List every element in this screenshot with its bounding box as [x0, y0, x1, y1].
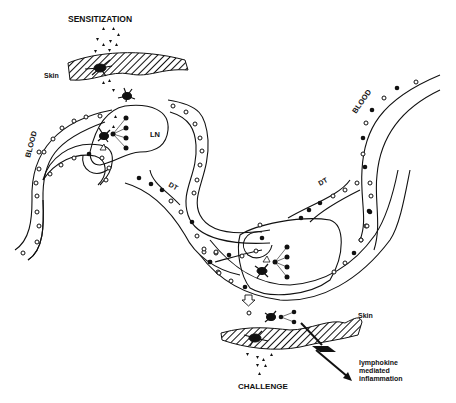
dt-right-label: DT	[317, 176, 329, 187]
migrating-apc-icon	[118, 88, 135, 102]
antigen-triangles-bottom	[246, 353, 273, 375]
antigen-triangles-top	[94, 27, 120, 53]
blood-vessel-right	[360, 75, 440, 250]
skin-bottom-label: Skin	[358, 312, 373, 319]
skin-top-label: Skin	[44, 72, 59, 79]
apc-bottom-ln-icon	[255, 256, 270, 278]
skin-bottom	[221, 318, 362, 349]
vessel-loop-bottom	[243, 232, 272, 258]
lymphocytes-dt-right	[299, 181, 359, 220]
dt-left-label: DT	[168, 181, 180, 192]
effector-apc-icon	[265, 311, 276, 322]
emigration-arrow-icon	[242, 295, 255, 315]
ln-label: LN	[150, 130, 160, 139]
clonal-expansion-bottom	[273, 245, 290, 280]
lymph-node-bottom	[238, 219, 341, 295]
thoracic-duct-right	[288, 180, 360, 222]
lymphocytes-right-vessel	[359, 80, 418, 242]
skin-top	[68, 53, 188, 81]
outcome-line2: mediated	[359, 367, 390, 374]
antigen-triangles-migrating	[102, 79, 115, 92]
blood-vessel-middle	[168, 100, 270, 243]
outcome-line1: lymphokine	[359, 359, 398, 367]
apc-presenting-icon	[98, 128, 110, 142]
challenge-label: CHALLENGE	[238, 382, 288, 391]
thoracic-duct-left	[125, 170, 240, 275]
lymphocytes-middle-vessel	[171, 104, 218, 255]
sensitization-label: SENSITIZATION	[68, 14, 132, 24]
effector-lymphocytes	[279, 310, 297, 325]
outcome-line3: inflammation	[359, 375, 403, 382]
blood-left-label: BLOOD	[23, 129, 39, 158]
immune-response-diagram: SENSITIZATION Skin	[0, 0, 456, 403]
